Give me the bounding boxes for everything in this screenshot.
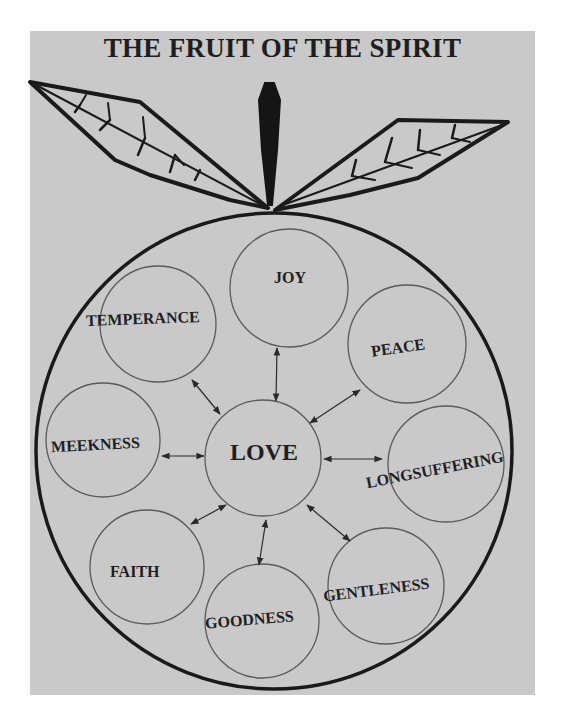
stem-icon <box>259 83 280 205</box>
label-faith: FAITH <box>110 563 159 581</box>
arrow-love-faith <box>191 505 226 524</box>
label-love: LOVE <box>230 439 298 466</box>
arrow-love-joy <box>276 348 277 401</box>
arrow-love-goodness <box>259 520 266 565</box>
arrow-love-temperance <box>192 380 220 414</box>
right-leaf-icon <box>275 120 508 210</box>
arrow-love-gentleness <box>307 505 350 541</box>
label-joy: JOY <box>274 269 306 287</box>
page-title: THE FRUIT OF THE SPIRIT <box>30 33 535 64</box>
arrow-love-peace <box>310 390 360 423</box>
left-leaf-icon <box>30 82 268 208</box>
circle-joy <box>230 229 348 347</box>
